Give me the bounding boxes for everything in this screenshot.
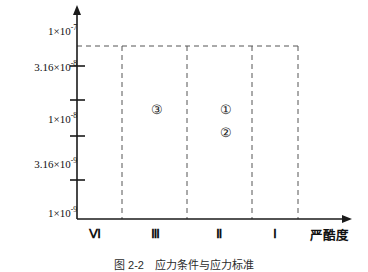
y-tick-label-3.16e-9: 3.16×10-9 (34, 156, 77, 170)
y-tick-label-3.16e-8: 3.16×10-8 (34, 59, 77, 73)
dashed-divider-lines (122, 46, 298, 219)
y-tick-label-1e-7: 1×10-7 (48, 23, 77, 37)
figure-caption: 图 2-2 应力条件与应力标准 (0, 256, 368, 272)
y-tick-label-1e-8: 1×10-8 (48, 111, 77, 125)
x-tick-label-ii: Ⅱ (216, 226, 222, 242)
region-marker-2: ② (220, 125, 232, 141)
x-tick-label-iii: Ⅲ (151, 226, 160, 242)
x-axis-title: 严酷度 (310, 225, 349, 244)
x-axis (77, 215, 352, 223)
x-tick-label-vi: Ⅵ (89, 226, 101, 242)
y-tick-label-1e-9: 1×10-9 (48, 205, 77, 219)
x-tick-label-i: Ⅰ (273, 226, 277, 242)
region-marker-3: ③ (151, 102, 163, 118)
region-marker-1: ① (220, 102, 232, 118)
